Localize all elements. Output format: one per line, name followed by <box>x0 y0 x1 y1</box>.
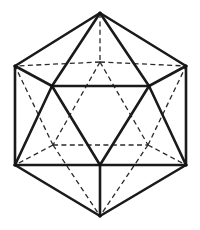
vertex-front-bottom <box>98 163 101 166</box>
vertex-lower-left <box>13 163 16 166</box>
vertex-bottom-apex <box>98 214 101 217</box>
icosahedron-figure <box>0 0 200 230</box>
vertex-upper-right <box>184 64 187 67</box>
vertex-front-right <box>147 84 150 87</box>
vertex-lower-right <box>184 163 187 166</box>
icosahedron-drawing <box>0 0 200 230</box>
vertex-front-left <box>50 84 53 87</box>
vertex-upper-left <box>13 64 16 67</box>
vertex-top-apex <box>98 11 101 14</box>
